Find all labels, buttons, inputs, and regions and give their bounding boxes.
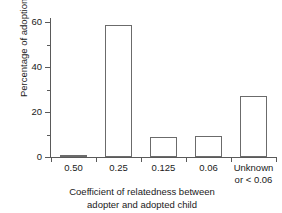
- x-tick-label-line-1: 0.50: [64, 162, 83, 173]
- x-tick-label-line-1: 0.125: [152, 162, 176, 173]
- bar-0.06: [195, 136, 223, 157]
- bar-0.125: [150, 137, 178, 157]
- y-tick-label: 0: [37, 151, 42, 162]
- x-tick-label-line-1: 0.25: [109, 162, 128, 173]
- x-tick-label-3: 0.06: [186, 162, 231, 174]
- x-tick-label-4: Unknownor < 0.06: [231, 162, 276, 186]
- y-axis-title: Percentage of adoptions: [18, 0, 29, 121]
- bar-unknown-or-0.06: [240, 96, 268, 157]
- plot-area: [51, 18, 276, 157]
- y-tick-minor: [47, 45, 50, 46]
- x-axis-title: Coefficient of relatedness between adopt…: [14, 185, 270, 211]
- x-tick-label-0: 0.50: [51, 162, 96, 174]
- bar-chart-figure: Percentage of adoptions 0204060 0.500.25…: [0, 0, 282, 213]
- y-tick-minor: [47, 135, 50, 136]
- y-tick-minor: [47, 90, 50, 91]
- bar-0.25: [105, 25, 133, 157]
- x-axis-line: [50, 157, 276, 158]
- y-tick-0: 0: [45, 157, 50, 158]
- x-axis-title-line-1: Coefficient of relatedness between: [14, 185, 270, 198]
- y-tick-20: 20: [45, 112, 50, 113]
- y-tick-40: 40: [45, 67, 50, 68]
- x-tick-label-line-1: Unknown: [234, 162, 274, 173]
- x-tick-label-2: 0.125: [141, 162, 186, 174]
- y-tick-label: 40: [31, 61, 42, 72]
- y-tick-label: 60: [31, 16, 42, 27]
- bar-0.50: [60, 155, 88, 157]
- y-tick-label: 20: [31, 106, 42, 117]
- x-axis-title-line-2: adopter and adopted child: [14, 198, 270, 211]
- y-tick-60: 60: [45, 22, 50, 23]
- x-tick-label-line-1: 0.06: [199, 162, 218, 173]
- x-tick: [276, 157, 277, 162]
- x-tick-label-1: 0.25: [96, 162, 141, 174]
